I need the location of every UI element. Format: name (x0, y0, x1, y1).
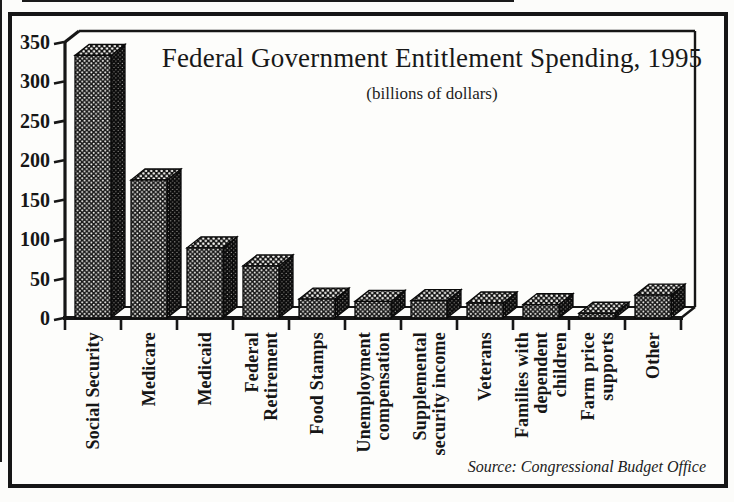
category-label: Medicaid (195, 332, 215, 406)
category-label: supports (597, 332, 617, 401)
chart-subtitle: (billions of dollars) (142, 84, 722, 104)
bar-unemployment-compensation (355, 290, 405, 318)
bar-social-security (75, 44, 125, 318)
bar-federal-retirement (243, 255, 293, 318)
bar-veterans (467, 292, 517, 318)
bar-families-with-dependent-children (523, 294, 573, 318)
y-tick (54, 42, 64, 44)
y-tick-label: 250 (20, 110, 50, 132)
chart-frame: 050100150200250300350Social SecurityMedi… (8, 12, 728, 488)
y-tick-label: 300 (20, 70, 50, 92)
bar-medicare (131, 169, 181, 318)
bar-other (635, 284, 685, 318)
category-labels: Social SecurityMedicareMedicaidFederalRe… (83, 332, 663, 455)
category-label: dependent (531, 332, 551, 414)
bar-medicaid (187, 237, 237, 318)
scan-artifact-left-edge (0, 0, 2, 462)
chart-title: Federal Government Entitlement Spending,… (142, 43, 722, 74)
y-tick (54, 318, 64, 320)
source-credit: Source: Congressional Budget Office (468, 458, 706, 476)
category-label: Federal (242, 332, 262, 392)
category-label: Unemployment (354, 332, 374, 452)
scan-artifact-top-edge (22, 0, 514, 2)
bar-farm-price-supports (579, 302, 629, 318)
category-label: security income (429, 332, 449, 455)
y-tick (54, 200, 64, 202)
category-label: compensation (373, 332, 393, 440)
y-tick (54, 279, 64, 281)
category-label: children (550, 332, 570, 397)
category-label: Farm price (578, 332, 598, 420)
category-label: Supplemental (410, 332, 430, 440)
y-tick-label: 100 (20, 228, 50, 250)
category-label: Other (643, 332, 663, 379)
bar-supplemental-security-income (411, 290, 461, 318)
y-tick (54, 239, 64, 241)
y-tick (54, 81, 64, 83)
y-tick-label: 350 (20, 31, 50, 53)
category-label: Social Security (83, 332, 103, 450)
y-tick-label: 50 (30, 268, 50, 290)
category-label: Veterans (475, 332, 495, 401)
y-tick (54, 121, 64, 123)
y-tick-label: 150 (20, 189, 50, 211)
y-tick (54, 160, 64, 162)
category-label: Medicare (139, 332, 159, 406)
category-label: Retirement (261, 332, 281, 421)
x-axis-ticks (65, 320, 681, 330)
y-tick-label: 0 (40, 307, 50, 329)
bar-food-stamps (299, 288, 349, 318)
y-axis-ticks: 050100150200250300350 (20, 31, 64, 329)
category-label: Families with (512, 332, 532, 438)
category-label: Food Stamps (307, 332, 327, 435)
y-tick-label: 200 (20, 149, 50, 171)
